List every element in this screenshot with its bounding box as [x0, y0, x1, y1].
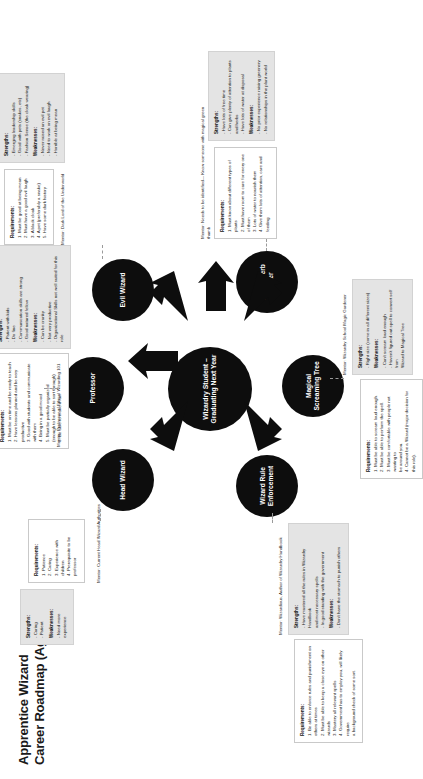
strengths-weaknesses-magical-screaming-tree: Strengths: - Right size (come in all dif… [352, 279, 413, 375]
mentor-magic-herb-maker: Mentor: Needs to be identified— Know som… [200, 99, 213, 239]
connector-head-wizard [100, 509, 101, 521]
weaknesses-header: Weaknesses: [49, 595, 55, 638]
arrow-to-magical-screaming-tree [244, 271, 282, 321]
arrows-group [60, 239, 360, 479]
requirement-item: 2. Have lessons planned and be very prod… [13, 359, 26, 442]
requirement-item: 4. Prerequisite to be professor [66, 525, 79, 576]
arrow-to-professor [128, 343, 178, 379]
requirement-item: 2. Must have room to care for every one … [240, 153, 253, 232]
weakness-item: - No prior experience raising greenery [256, 57, 262, 134]
requirements-header: Requirements: [366, 385, 372, 472]
requirement-item: 2. Must have a good evil laugh [23, 175, 29, 238]
requirement-item: 3. Good with students and communicate wi… [26, 359, 39, 442]
requirement-item: 3. Experience with children [54, 525, 67, 576]
weaknesses-header: Weaknesses: [374, 285, 380, 368]
requirement-item: 2. Must be able to keep a close eye on o… [320, 645, 333, 736]
weaknesses-header: Weaknesses: [249, 57, 255, 134]
mentor-professor: Mentor: Professor of Ethical Wizarding 1… [56, 364, 61, 447]
strengths-header: Strengths: [294, 529, 300, 628]
strengths-weaknesses-wizard-rule-enforcement: Strengths: - Have mastered all the rules… [288, 523, 349, 635]
requirements-head-wizard: Requirements: 1. Patience 2. Caring 3. E… [28, 519, 85, 583]
strength-item: - Can give plenty of attention to plants… [227, 57, 240, 134]
requirement-item: 3. Must be comfortable with people not w… [386, 385, 399, 472]
strengths-header: Strengths: [214, 57, 220, 134]
connector-magic-herb-maker [266, 239, 267, 251]
requirements-magical-screaming-tree: Requirements: 1. Must be able to scream … [360, 379, 423, 479]
connector-evil-wizard [102, 245, 103, 259]
weakness-item: - Horrible at being mean [53, 79, 59, 156]
requirement-item: 4. Government has to employ you, will li… [338, 645, 351, 736]
requirements-header: Requirements: [300, 645, 306, 736]
strengths-weaknesses-magic-herb-maker: Strengths: - Have lots of free time - Ca… [208, 51, 275, 141]
requirement-item: 1. Must know about different types of pl… [227, 153, 240, 232]
requirement-item: 4. Give them lots of attention, care and… [258, 153, 271, 232]
connector-professor [44, 388, 58, 389]
arrow-to-head-wizard [150, 401, 188, 451]
weaknesses-header: Weaknesses: [33, 251, 39, 342]
weakness-item: Wizard to Magical Tree [400, 285, 406, 368]
weakness-item: - Organizational Skills not well suited … [53, 251, 66, 342]
mentor-magical-screaming-tree: Mentor: Wizardry School Magic Gardener [342, 294, 347, 375]
strengths-weaknesses-evil-wizard: Strengths: - Emerging leadership skills … [0, 73, 65, 163]
requirement-item: 4. Cannot be a Wizard (major decision fo… [404, 385, 417, 472]
weakness-item: - No relationships in the plant world [263, 57, 269, 134]
requirements-evil-wizard: Requirements: 1. Must be good at being m… [4, 169, 54, 245]
mentor-wizard-rule-enforcement: Mentor: Wizardious, Author of Wizardry H… [278, 537, 283, 635]
strength-item: - Have mastered all the rules in Wizardr… [301, 529, 314, 628]
connector-magical-screaming-tree [330, 378, 344, 379]
weaknesses-header: Weaknesses: [33, 79, 39, 156]
requirements-header: Requirements: [0, 359, 6, 442]
arrow-to-magic-herb-maker [198, 261, 234, 311]
requirements-header: Requirements: [220, 153, 226, 232]
strengths-header: Strengths: [4, 79, 10, 156]
strength-item: - Fashion Sense (the cloak wearing) [24, 79, 30, 156]
weakness-item: - Don't have the stomach to punish other… [336, 529, 342, 628]
connector-wizard-rule-enforcement [272, 513, 273, 523]
strength-item: - Right size (come in all different size… [365, 285, 371, 368]
requirement-item: a background check of some sort. [351, 645, 357, 736]
requirements-header: Requirements: [10, 175, 16, 238]
weaknesses-header: Weaknesses: [329, 529, 335, 628]
mentor-evil-wizard: Mentor: Dark Lord of the Underworld [60, 174, 65, 245]
requirements-header: Requirements: [34, 525, 40, 576]
strengths-header: Strengths: [26, 595, 32, 638]
weakness-item: - Haven't figured out spell to convert s… [388, 285, 401, 368]
requirements-wizard-rule-enforcement: Requirements: 1. Be able to enforce rule… [294, 639, 363, 743]
requirements-magic-herb-maker: Requirements: 1. Must know about differe… [214, 147, 277, 239]
requirement-item: 5. Have some dark history [42, 175, 48, 238]
arrow-to-wizard-rule-enforcement [244, 401, 282, 451]
strengths-header: Strengths: [358, 285, 364, 368]
strengths-weaknesses-head-wizard: Strengths: - Caring - Patient Weaknesses… [20, 589, 74, 645]
weakness-item: - Need more experience [56, 595, 69, 638]
arrow-to-evil-wizard [150, 271, 188, 321]
strengths-weaknesses-professor: Strengths: - Patient with kids - Do fine… [0, 245, 71, 349]
strengths-header: Strengths: [0, 251, 4, 342]
